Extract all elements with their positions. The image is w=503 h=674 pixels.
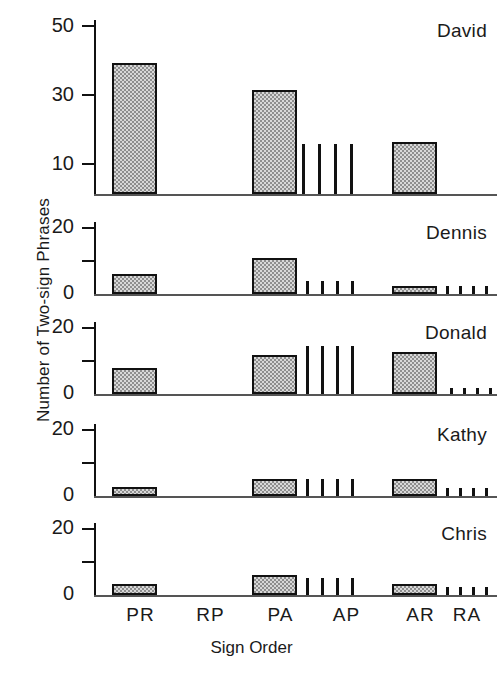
panel-david: 50 30 10 David: [0, 20, 503, 198]
bar-chris-AR: [392, 584, 437, 595]
panel-label-dennis: Dennis: [426, 222, 487, 244]
tickgroup-kathy-RA: [446, 487, 492, 496]
bar-dennis-PA: [252, 258, 297, 294]
y-tick-20: [82, 327, 94, 329]
tickgroup-chris-AP: [306, 577, 362, 595]
tickgroup-kathy-AP: [306, 478, 362, 496]
y-tick-label-20: 20: [12, 418, 74, 438]
bar-dennis-PR: [112, 274, 157, 294]
tickgroup-dennis-RA: [446, 285, 492, 294]
y-tick-20: [82, 429, 94, 431]
y-tick-label-20: 20: [12, 517, 74, 537]
y-tick-label-0: 0: [12, 583, 74, 603]
y-tick-label-0: 0: [12, 382, 74, 402]
bar-david-PR: [112, 63, 157, 194]
x-tick-label-RA: RA: [434, 604, 500, 626]
y-tick-50: [82, 25, 94, 27]
panel-donald: 20 0 Donald: [0, 322, 503, 398]
tickgroup-donald-RA: [450, 387, 490, 394]
y-axis-title: Number of Two-sign Phrases: [34, 170, 54, 450]
x-axis-line: [94, 394, 497, 396]
panel-kathy: 20 0 Kathy: [0, 424, 503, 500]
y-tick-label-50: 50: [12, 15, 74, 35]
bar-donald-PR: [112, 368, 157, 394]
bar-chris-PR: [112, 584, 157, 595]
y-tick-30: [82, 94, 94, 96]
chart-container: Number of Two-sign Phrases 50 30 10 Davi…: [0, 0, 503, 674]
y-tick-label-0: 0: [12, 484, 74, 504]
y-tick-10: [82, 561, 94, 563]
y-tick-label-0: 0: [12, 282, 74, 302]
panel-dennis: 20 0 Dennis: [0, 222, 503, 298]
y-axis-line: [94, 322, 96, 396]
tickgroup-david-AP: [302, 142, 362, 194]
y-tick-10: [82, 260, 94, 262]
y-tick-label-10: 10: [12, 153, 74, 173]
bar-donald-AR: [392, 352, 437, 394]
x-axis-line: [94, 294, 497, 296]
bar-kathy-PR: [112, 487, 157, 496]
y-tick-20: [82, 528, 94, 530]
y-axis-line: [94, 523, 96, 597]
bar-kathy-PA: [252, 479, 297, 496]
y-tick-label-30: 30: [12, 84, 74, 104]
panel-label-chris: Chris: [441, 523, 487, 545]
bar-kathy-AR: [392, 479, 437, 496]
y-tick-10: [82, 360, 94, 362]
panel-label-kathy: Kathy: [437, 424, 487, 446]
bar-dennis-AR: [392, 286, 437, 294]
bar-chris-PA: [252, 575, 297, 595]
tickgroup-chris-RA: [446, 586, 492, 595]
panel-label-david: David: [437, 20, 487, 42]
y-tick-20: [82, 227, 94, 229]
bar-david-AR: [392, 142, 437, 194]
panel-chris: 20 0 Chris: [0, 523, 503, 599]
x-axis-title: Sign Order: [0, 638, 503, 658]
x-axis-line: [94, 595, 497, 597]
x-axis-line: [94, 496, 497, 498]
y-axis-line: [94, 222, 96, 296]
y-axis-line: [94, 20, 96, 196]
panel-label-donald: Donald: [425, 322, 487, 344]
x-axis-line: [94, 194, 497, 196]
y-tick-10: [82, 462, 94, 464]
y-tick-label-20: 20: [12, 316, 74, 336]
tickgroup-dennis-AP: [306, 280, 362, 294]
y-axis-line: [94, 424, 96, 498]
y-tick-10: [82, 163, 94, 165]
bar-david-PA: [252, 90, 297, 194]
y-tick-label-20: 20: [12, 216, 74, 236]
tickgroup-donald-AP: [306, 344, 362, 394]
bar-donald-PA: [252, 355, 297, 394]
